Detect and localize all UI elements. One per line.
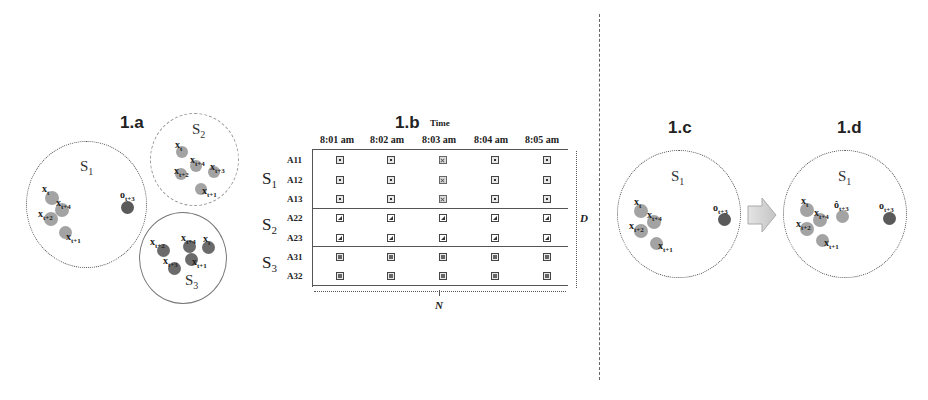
time-axis-label: Time xyxy=(430,118,450,128)
row-label-a13: A13 xyxy=(287,194,303,204)
col-header-2: 8:03 am xyxy=(422,134,456,145)
table-top-border xyxy=(312,149,568,150)
cell-icon xyxy=(387,272,395,280)
group-label-s1: S1 xyxy=(262,169,277,190)
dimension-n-label: N xyxy=(435,299,443,311)
set-s2-label: S2 xyxy=(192,121,205,140)
cell-icon xyxy=(543,214,551,222)
row-label-a23: A23 xyxy=(287,233,303,243)
group-label-s3: S3 xyxy=(262,253,277,274)
label-x-t1: xt+1 xyxy=(66,232,81,246)
cell-icon xyxy=(543,195,551,203)
table-bottom-border xyxy=(312,285,568,286)
group-divider-2 xyxy=(312,246,568,247)
height-dimension-brace xyxy=(572,151,577,288)
cell-icon xyxy=(336,176,344,184)
row-label-a12: A12 xyxy=(287,175,303,185)
s2-label-x-t3: xt+3 xyxy=(210,162,225,176)
cell-icon xyxy=(387,253,395,261)
label-x-t2: xt+2 xyxy=(38,209,53,223)
c-label-x-t1: xt+1 xyxy=(658,241,673,255)
cell-icon xyxy=(439,272,447,280)
cell-icon xyxy=(439,253,447,261)
cell-icon xyxy=(491,156,499,164)
row-label-a32: A32 xyxy=(287,271,303,281)
cell-icon xyxy=(336,234,344,242)
cell-missing-icon xyxy=(439,156,447,164)
cell-icon xyxy=(387,156,395,164)
set-s1-label: S1 xyxy=(80,158,93,177)
cell-icon xyxy=(491,214,499,222)
label-x-t: xt xyxy=(42,184,49,198)
cell-icon xyxy=(336,156,344,164)
c-label-o-t3: ot+3 xyxy=(713,203,728,217)
cell-icon xyxy=(543,272,551,280)
cell-icon xyxy=(491,195,499,203)
s2-label-x-t1: xt+1 xyxy=(202,186,217,200)
cell-icon xyxy=(491,234,499,242)
cell-icon xyxy=(336,214,344,222)
s2-label-x-t: xt xyxy=(175,140,182,154)
transition-arrow-icon xyxy=(747,197,777,233)
table-left-border xyxy=(312,149,313,287)
label-x-t4: xt+4 xyxy=(56,198,71,212)
s3-label-x-t2: xt+2 xyxy=(150,237,165,251)
cell-icon xyxy=(543,156,551,164)
section-divider xyxy=(599,14,600,380)
cell-icon xyxy=(543,253,551,261)
d-label-x-t: xt xyxy=(801,196,808,210)
row-label-a31: A31 xyxy=(287,252,303,262)
s3-label-x-t3: xt+3 xyxy=(163,256,178,270)
set-s3-label: S3 xyxy=(185,272,198,291)
c-label-x-t4: xt+4 xyxy=(647,210,662,224)
dimension-d-label: D xyxy=(580,212,588,224)
cell-missing-icon xyxy=(439,195,447,203)
cell-icon xyxy=(387,176,395,184)
group-divider-1 xyxy=(312,208,568,209)
s3-label-x-t: xt xyxy=(203,234,210,248)
d-label-x-t4: xt+4 xyxy=(814,208,829,222)
set-s3-ring xyxy=(139,212,227,304)
panel-a-title: 1.a xyxy=(120,113,144,133)
col-header-1: 8:02 am xyxy=(370,134,404,145)
group-label-s2: S2 xyxy=(262,215,277,236)
row-label-a11: A11 xyxy=(287,155,302,165)
label-o-t3: ot+3 xyxy=(120,190,135,204)
c-label-x-t2: xt+2 xyxy=(629,221,644,235)
cell-icon xyxy=(491,253,499,261)
col-header-0: 8:01 am xyxy=(320,134,354,145)
set-s1-label-c: S1 xyxy=(671,168,684,187)
cell-icon xyxy=(439,214,447,222)
cell-icon xyxy=(543,176,551,184)
set-s1-label-d: S1 xyxy=(838,168,851,187)
s3-label-x-t4: xt+4 xyxy=(181,233,196,247)
s3-label-x-t1: xt+1 xyxy=(192,257,207,271)
cell-icon xyxy=(491,272,499,280)
cell-icon xyxy=(336,195,344,203)
cell-icon xyxy=(336,253,344,261)
d-label-x-t2: xt+2 xyxy=(796,219,811,233)
d-label-o-t3: ot+3 xyxy=(879,201,894,215)
col-header-4: 8:05 am xyxy=(525,134,559,145)
panel-c-title: 1.c xyxy=(668,118,692,138)
cell-icon xyxy=(387,214,395,222)
s2-label-x-t2: xt+2 xyxy=(174,166,189,180)
c-label-x-t: xt xyxy=(634,197,641,211)
cell-icon xyxy=(387,195,395,203)
cell-icon xyxy=(491,176,499,184)
d-label-x-t1: xt+1 xyxy=(824,238,839,252)
cell-icon xyxy=(439,234,447,242)
row-label-a22: A22 xyxy=(287,213,303,223)
s2-label-x-t4: xt+4 xyxy=(190,155,205,169)
width-dimension-brace xyxy=(314,288,566,292)
d-label-ohat-t3: ôt+3 xyxy=(834,200,849,214)
cell-missing-icon xyxy=(439,176,447,184)
col-header-3: 8:04 am xyxy=(474,134,508,145)
cell-icon xyxy=(336,272,344,280)
panel-d-title: 1.d xyxy=(837,118,862,138)
panel-b-title: 1.b xyxy=(395,113,420,133)
cell-icon xyxy=(387,234,395,242)
n-tick xyxy=(439,290,440,296)
cell-icon xyxy=(543,234,551,242)
